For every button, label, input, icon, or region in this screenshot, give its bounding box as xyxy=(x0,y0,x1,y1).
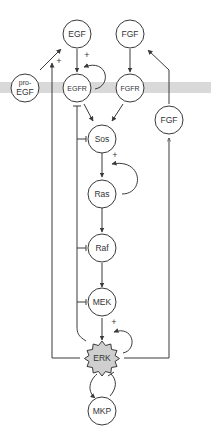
sign-erk-autoloop: + xyxy=(111,317,116,327)
node-fgfr-label: FGFR xyxy=(120,85,139,92)
edge-erk-mkp xyxy=(90,374,97,398)
node-erk-label: ERK xyxy=(93,353,111,363)
node-fgf-top[interactable]: FGF xyxy=(116,20,144,48)
node-egfr[interactable]: EGFR xyxy=(63,74,91,102)
sign-ras-autoloop: + xyxy=(112,150,117,160)
node-egfr-label: EGFR xyxy=(67,85,86,92)
sign-egfr-autoloop: + xyxy=(84,50,89,60)
edge-erk-inhibition-trunk xyxy=(77,106,86,341)
node-sos-label: Sos xyxy=(95,134,110,144)
node-raf[interactable]: Raf xyxy=(88,234,116,262)
node-mek[interactable]: MEK xyxy=(88,288,116,316)
node-ras[interactable]: Ras xyxy=(88,180,116,208)
node-raf-label: Raf xyxy=(95,243,109,253)
edge-erk-autoloop xyxy=(114,331,132,353)
edge-ras-autoloop xyxy=(112,163,138,194)
node-fgf-top-label: FGF xyxy=(122,29,139,39)
edge-fgfr-sos xyxy=(112,104,123,121)
sign-proegf-egf: + xyxy=(56,56,61,66)
node-pro-egf[interactable]: pro- EGF xyxy=(11,74,39,102)
node-fgf-right[interactable]: FGF xyxy=(155,106,183,134)
node-fgfr[interactable]: FGFR xyxy=(116,74,144,102)
node-mkp-label: MKP xyxy=(93,406,112,416)
node-mek-label: MEK xyxy=(93,297,112,307)
edge-fgf-secretion xyxy=(148,50,169,104)
node-sos[interactable]: Sos xyxy=(88,125,116,153)
node-ras-label: Ras xyxy=(94,189,109,199)
node-pro-egf-label-2: EGF xyxy=(16,87,33,97)
node-egf-label: EGF xyxy=(68,29,85,39)
edge-mkp-erk-inhibition xyxy=(110,374,115,396)
node-fgf-right-label: FGF xyxy=(161,115,178,125)
edge-erk-proegf-feedback xyxy=(52,63,80,358)
node-pro-egf-label-1: pro- xyxy=(19,79,32,87)
pathway-diagram: EGF FGF pro- EGF EGFR FGFR FGF Sos Ras R… xyxy=(0,0,211,435)
node-egf[interactable]: EGF xyxy=(63,20,91,48)
edge-egfr-sos xyxy=(84,104,93,121)
node-mkp[interactable]: MKP xyxy=(88,397,116,425)
edge-erk-fgf xyxy=(124,138,169,358)
node-erk[interactable]: ERK xyxy=(85,341,120,376)
